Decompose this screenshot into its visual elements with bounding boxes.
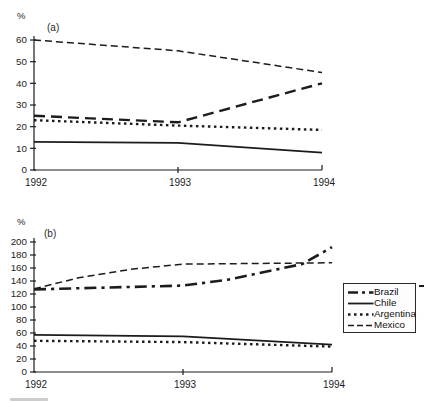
- y-tick-label: 160: [11, 262, 28, 273]
- legend-item-brazil: Brazil: [347, 286, 415, 297]
- y-tick-label: 60: [16, 34, 27, 45]
- y-tick-label: 120: [11, 288, 28, 299]
- y-tick-label: 40: [16, 340, 27, 351]
- y-tick-label: 50: [16, 56, 27, 67]
- mexico-dashed-line-icon: [347, 320, 374, 330]
- series-line-brazil: [34, 83, 322, 122]
- y-tick-label: 30: [16, 99, 27, 110]
- legend-box: Brazil Chile Argentina Mexico: [343, 283, 416, 333]
- line-charts-canvas: 0102030405060199219931994020406080100120…: [0, 0, 424, 403]
- cropped-caption-remnant: [10, 398, 48, 401]
- y-tick-label: 0: [22, 164, 28, 175]
- y-tick-label: 10: [16, 143, 27, 154]
- brazil-dashdot-line-icon: [347, 287, 374, 297]
- chart-a-panel-label: (a): [47, 22, 59, 33]
- legend-label-chile: Chile: [374, 298, 396, 308]
- y-tick-label: 0: [22, 366, 28, 377]
- series-line-chile: [34, 142, 322, 153]
- chart-b-panel-label: (b): [44, 228, 56, 239]
- y-tick-label: 180: [11, 249, 28, 260]
- legend-item-argentina: Argentina: [347, 308, 415, 319]
- y-tick-label: 40: [16, 78, 27, 89]
- x-tick-label: 1992: [25, 379, 48, 390]
- chile-solid-line-icon: [347, 298, 374, 308]
- argentina-dotted-line-icon: [347, 309, 374, 319]
- y-tick-label: 60: [16, 327, 27, 338]
- y-tick-label: 20: [16, 121, 27, 132]
- legend-item-chile: Chile: [347, 297, 415, 308]
- legend-label-brazil: Brazil: [374, 287, 399, 297]
- y-tick-label: 140: [11, 275, 28, 286]
- y-tick-label: 80: [16, 314, 27, 325]
- chart-b: 020406080100120140160180200199219931994: [11, 236, 346, 390]
- legend-item-mexico: Mexico: [347, 319, 415, 330]
- y-tick-label: 20: [16, 353, 27, 364]
- legend-label-mexico: Mexico: [374, 320, 405, 330]
- chart-b-y-unit-label: %: [17, 216, 25, 227]
- x-tick-label: 1992: [25, 177, 48, 188]
- chart-a: 0102030405060199219931994: [16, 34, 335, 188]
- series-line-mexico: [34, 40, 322, 73]
- x-tick-label: 1994: [323, 379, 346, 390]
- series-line-chile: [34, 335, 332, 345]
- legend-label-argentina: Argentina: [374, 309, 416, 319]
- series-line-brazil: [34, 247, 332, 289]
- x-tick-label: 1993: [169, 177, 192, 188]
- y-tick-label: 100: [11, 301, 28, 312]
- y-tick-label: 200: [11, 236, 28, 247]
- chart-a-y-unit-label: %: [17, 10, 25, 21]
- x-tick-label: 1994: [313, 177, 336, 188]
- x-tick-label: 1993: [174, 379, 197, 390]
- edge-artifact-dash: [419, 285, 424, 287]
